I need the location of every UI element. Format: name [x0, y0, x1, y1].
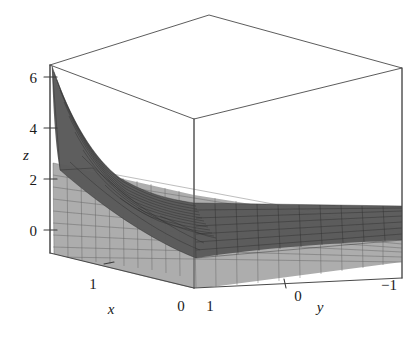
z-tick-label-4: 4 — [30, 121, 38, 137]
y-axis-label: y — [315, 299, 324, 315]
x-tick-label-1: 1 — [89, 276, 97, 292]
z-tick-label-6: 6 — [30, 70, 38, 86]
z-axis-label: z — [22, 147, 29, 163]
surface-group — [52, 66, 402, 289]
x-axis-label: x — [107, 301, 115, 317]
z-axis: 6 4 2 0 z — [22, 70, 57, 239]
y-tick-label-0: 0 — [294, 288, 302, 304]
z-tick-label-0: 0 — [30, 223, 38, 239]
z-tick-label-2: 2 — [30, 172, 38, 188]
x-tick-label-0: 0 — [177, 298, 185, 314]
surface-plot-figure: 6 4 2 0 z 1 0 x 1 0 −1 y — [0, 0, 416, 350]
plot-canvas: 6 4 2 0 z 1 0 x 1 0 −1 y — [0, 0, 416, 350]
y-tick-label-1: 1 — [206, 298, 214, 314]
y-tick-label-neg1: −1 — [381, 277, 397, 293]
